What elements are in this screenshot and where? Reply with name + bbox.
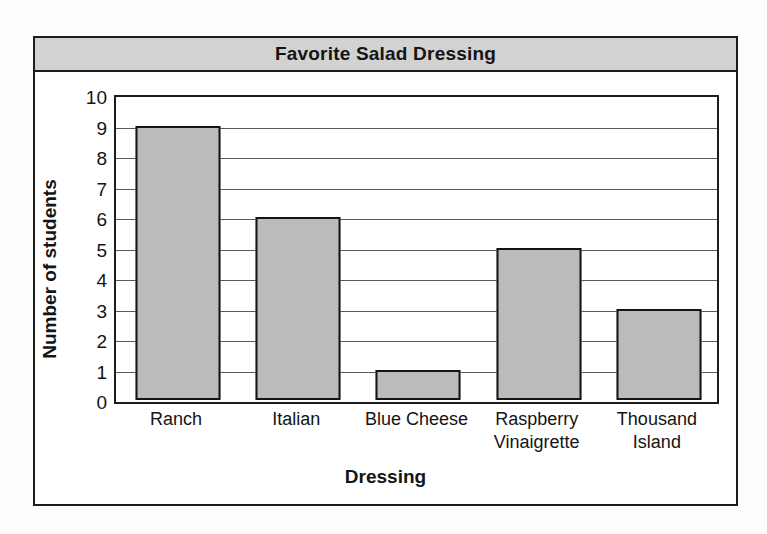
y-axis-tick-labels: 109876543210	[35, 95, 107, 404]
y-axis-tick-label: 6	[35, 210, 107, 229]
x-axis-tick-label: ThousandIsland	[597, 408, 717, 454]
x-axis-tick-label: RaspberryVinaigrette	[477, 408, 597, 454]
plot-area	[114, 95, 719, 404]
chart-title-banner: Favorite Salad Dressing	[35, 38, 736, 72]
y-axis-tick-label: 1	[35, 362, 107, 381]
bar-slot	[599, 99, 719, 400]
x-axis-tick-label-line: Blue Cheese	[356, 408, 476, 431]
bar-slot	[238, 99, 358, 400]
y-axis-tick-label: 2	[35, 332, 107, 351]
bar-slot	[118, 99, 238, 400]
x-axis-tick-label-line: Ranch	[116, 408, 236, 431]
x-axis-title: Dressing	[35, 466, 736, 488]
x-axis-tick-label: Blue Cheese	[356, 408, 476, 431]
bars-layer	[118, 99, 715, 400]
x-axis-tick-label: Ranch	[116, 408, 236, 431]
bar-slot	[358, 99, 478, 400]
x-axis-tick-label-line: Thousand	[597, 408, 717, 431]
y-axis-tick-label: 0	[35, 393, 107, 412]
y-axis-tick-label: 10	[35, 88, 107, 107]
x-axis-tick-label: Italian	[236, 408, 356, 431]
y-axis-tick-label: 8	[35, 149, 107, 168]
y-axis-tick-label: 7	[35, 179, 107, 198]
y-axis-tick-label: 4	[35, 271, 107, 290]
x-axis-tick-labels: RanchItalianBlue CheeseRaspberryVinaigre…	[114, 408, 719, 462]
bar[interactable]	[136, 126, 221, 401]
bar[interactable]	[256, 217, 341, 400]
bar[interactable]	[616, 309, 701, 401]
x-axis-tick-label-line: Raspberry	[477, 408, 597, 431]
figure-frame: Favorite Salad Dressing Number of studen…	[33, 36, 738, 506]
chart-title: Favorite Salad Dressing	[275, 43, 496, 65]
x-axis-tick-label-line: Italian	[236, 408, 356, 431]
y-axis-tick-label: 9	[35, 118, 107, 137]
y-axis-tick-label: 3	[35, 301, 107, 320]
bar[interactable]	[496, 248, 581, 401]
y-axis-tick-label: 5	[35, 240, 107, 259]
bar-slot	[479, 99, 599, 400]
bar[interactable]	[376, 370, 461, 401]
x-axis-tick-label-line: Vinaigrette	[477, 431, 597, 454]
x-axis-tick-label-line: Island	[597, 431, 717, 454]
